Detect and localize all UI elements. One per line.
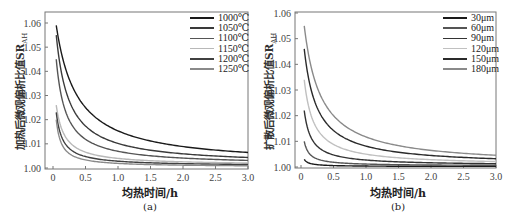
legend-label: 1250℃	[218, 64, 249, 74]
chart-panel-a: 1.001.011.021.031.041.051.0600.51.01.52.…	[0, 0, 255, 219]
legend-swatch	[190, 58, 214, 60]
x-tick-label: 1.5	[392, 171, 405, 182]
chart-a-x-axis-label: 均热时间/h	[100, 184, 200, 200]
x-tick-label: 0	[51, 172, 56, 183]
x-tick-label: 1.0	[112, 172, 125, 183]
x-tick-label: 1.0	[360, 171, 373, 182]
chart-b-legend: 30μm60μm90μm120μm150μm180μm	[443, 13, 499, 74]
chart-a-y-axis-label: 加热后微观偏析比值SRAH	[12, 33, 29, 150]
x-tick-label: 2.0	[425, 171, 438, 182]
x-tick-label: 0.5	[79, 172, 92, 183]
chart-a-caption: (a)	[135, 201, 165, 212]
legend-swatch	[190, 17, 214, 19]
legend-swatch	[190, 27, 214, 29]
legend-swatch	[190, 68, 214, 70]
x-tick-label: 2.0	[177, 172, 190, 183]
series-line	[56, 120, 248, 166]
legend-swatch	[190, 38, 214, 40]
legend-swatch	[443, 68, 467, 70]
chart-b-caption: (b)	[383, 201, 413, 212]
chart-b-y-axis-label: 扩散后微观偏析比值SRAH	[261, 33, 278, 150]
legend-swatch	[190, 48, 214, 50]
series-line	[304, 111, 496, 164]
legend-swatch	[443, 48, 467, 50]
legend-swatch	[443, 58, 467, 60]
legend-item: 180μm	[443, 64, 499, 74]
series-line	[304, 80, 496, 162]
chart-panel-b: 1.001.011.021.031.041.051.0600.51.01.52.…	[255, 0, 511, 219]
x-tick-label: 1.5	[144, 172, 157, 183]
x-tick-label: 3.0	[490, 171, 503, 182]
legend-swatch	[443, 38, 467, 40]
y-tick-label: 1.00	[24, 163, 42, 174]
x-tick-label: 0	[299, 171, 304, 182]
x-tick-label: 3.0	[242, 172, 255, 183]
legend-label: 180μm	[471, 64, 499, 74]
y-tick-label: 1.06	[24, 18, 42, 29]
x-tick-label: 2.5	[209, 172, 222, 183]
chart-a-legend: 1000℃1050℃1100℃1150℃1200℃1250℃	[190, 13, 249, 74]
legend-item: 1250℃	[190, 64, 249, 74]
y-tick-label: 1.00	[274, 162, 292, 173]
chart-b-x-axis-label: 均热时间/h	[348, 184, 448, 200]
legend-swatch	[443, 17, 467, 19]
y-tick-label: 1.06	[274, 8, 292, 19]
legend-swatch	[443, 27, 467, 29]
series-line	[56, 105, 248, 163]
x-tick-label: 2.5	[457, 171, 470, 182]
x-tick-label: 0.5	[327, 171, 340, 182]
series-line	[56, 59, 248, 160]
